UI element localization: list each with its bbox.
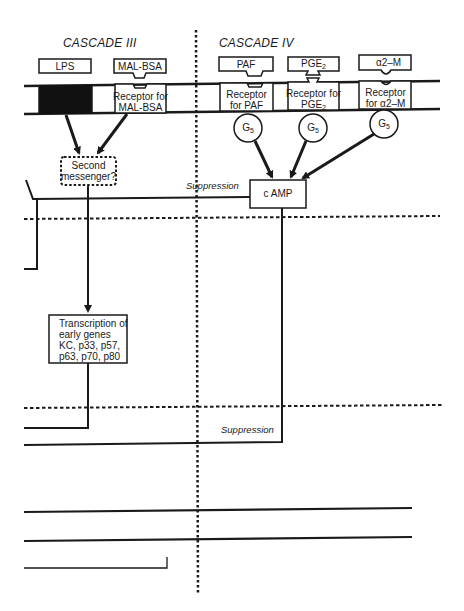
second-messenger-line2: messenger? bbox=[59, 171, 118, 182]
transcription-line-2: early genes bbox=[59, 329, 128, 340]
mal-bsa-receptor-label: Receptor for MAL-BSA bbox=[113, 91, 168, 113]
transcription-line-1: Transcription of bbox=[59, 318, 128, 329]
bottom-line-2 bbox=[24, 537, 412, 541]
left-branch-line bbox=[24, 199, 37, 269]
transcription-output-line bbox=[24, 363, 88, 428]
paf-receptor-label: Receptor for PAF bbox=[219, 89, 274, 111]
second-messenger-label: Second messenger? bbox=[59, 160, 118, 182]
a2m-receptor-line1: Receptor bbox=[358, 87, 413, 98]
paf-ligand-label: PAF bbox=[219, 59, 273, 70]
transcription-line-3: KC, p33, p57, bbox=[59, 340, 128, 351]
g-protein-label-2: G5 bbox=[299, 122, 327, 136]
dotted-separator-upper bbox=[24, 216, 440, 219]
a2m-receptor-label: Receptor for α2–M bbox=[358, 87, 413, 109]
pge2-ligand-label: PGE2 bbox=[288, 58, 339, 72]
a2m-receptor-line2: for α2–M bbox=[358, 98, 413, 109]
a2m-ligand-label: α2–M bbox=[366, 57, 411, 68]
paf-receptor-line2: for PAF bbox=[219, 100, 274, 111]
suppression-label-lower: Suppression bbox=[221, 424, 274, 435]
pge2-receptor-line1: Receptor for bbox=[286, 88, 341, 99]
suppression-label-upper: Suppression bbox=[186, 180, 239, 191]
pge2-receptor-line2: PGE2 bbox=[286, 99, 341, 113]
second-messenger-line1: Second bbox=[59, 160, 118, 171]
camp-label: c AMP bbox=[250, 188, 306, 199]
bottom-bracket-line bbox=[24, 557, 167, 568]
arrow-lps-to-second-messenger bbox=[66, 115, 79, 153]
cascade-iii-title: CASCADE III bbox=[63, 36, 137, 50]
bottom-line-1 bbox=[24, 508, 412, 512]
arrow-g2-to-camp bbox=[291, 141, 306, 177]
mal-bsa-receptor-line1: Receptor for bbox=[113, 91, 168, 102]
transcription-label: Transcription of early genes KC, p33, p5… bbox=[59, 318, 128, 362]
mal-bsa-ligand-label: MAL-BSA bbox=[114, 61, 166, 72]
mal-bsa-receptor-line2: MAL-BSA bbox=[113, 102, 168, 113]
arrow-g1-to-camp bbox=[255, 141, 272, 177]
lps-receptor-filled bbox=[39, 85, 92, 114]
pge2-ligand-sub: 2 bbox=[322, 63, 326, 70]
paf-receptor-line1: Receptor bbox=[219, 89, 274, 100]
cascade-iv-title: CASCADE IV bbox=[219, 36, 294, 50]
pge2-receptor-label: Receptor for PGE2 bbox=[286, 88, 341, 113]
g-protein-label-1: G5 bbox=[234, 122, 262, 136]
lps-ligand-label: LPS bbox=[39, 61, 91, 72]
arrow-malbsa-to-second-messenger bbox=[98, 114, 127, 153]
transcription-line-4: p63, p70, p80 bbox=[59, 351, 128, 362]
pge2-ligand-main: PGE bbox=[301, 58, 322, 69]
dotted-separator-lower bbox=[24, 405, 442, 408]
g-protein-label-3: G5 bbox=[370, 118, 398, 132]
